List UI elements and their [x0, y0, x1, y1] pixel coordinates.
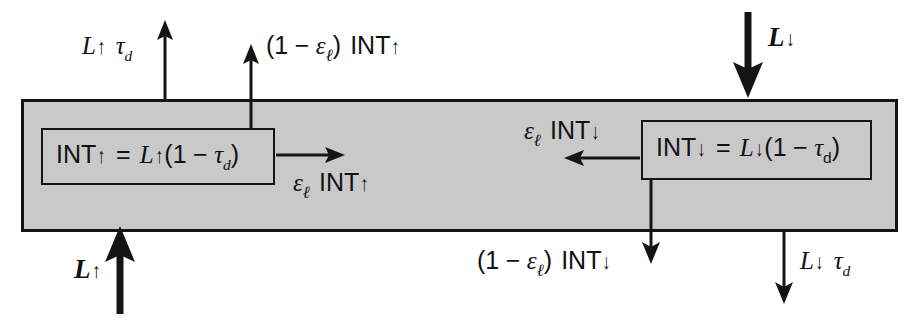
arrow-right-absorbed-up [276, 147, 345, 163]
token-epsilon: ε [527, 247, 537, 274]
token-rparen: ) [333, 31, 341, 59]
token-tau: τ [814, 134, 823, 161]
label-top-mid-emitted: (1−εℓ)INT↑ [266, 33, 401, 64]
token-lparen: ( [764, 133, 772, 161]
label-top-left-transmitted: L↑τd [82, 33, 132, 63]
arrow-down-bold-source [733, 12, 763, 98]
arrow-down-mid-emitted [642, 180, 660, 264]
token-L: L [82, 32, 96, 59]
arrow-glyph-down: ↓ [785, 28, 794, 49]
label-bottom-mid-emitted: (1−εℓ)INT↓ [477, 248, 612, 279]
label-absorbed-upward: εℓINT↑ [293, 170, 370, 201]
arrow-glyph-up: ↑ [97, 37, 106, 59]
token-epsilon: ε [316, 32, 326, 59]
token-one: 1 [485, 246, 499, 274]
arrow-up-mid-emitted [243, 44, 259, 128]
token-minus: − [193, 140, 208, 168]
token-one: 1 [173, 140, 187, 168]
token-INT: INT [319, 168, 359, 196]
token-subscript-l: ℓ [534, 131, 541, 150]
token-L-bold: L [768, 22, 785, 52]
arrow-left-absorbed-down [564, 150, 640, 166]
arrow-up-bold-source [105, 226, 135, 314]
token-INT: INT [550, 116, 590, 144]
arrow-glyph-down: ↓ [815, 252, 824, 274]
arrow-glyph-up: ↑ [91, 260, 100, 281]
token-subscript-l: ℓ [326, 46, 333, 65]
token-lparen: ( [164, 140, 172, 168]
token-tau: τ [834, 247, 843, 274]
token-INT: INT [350, 31, 390, 59]
token-subscript-l: ℓ [537, 261, 544, 280]
token-rparen: ) [832, 133, 840, 161]
arrow-down-right-transmitted [775, 232, 793, 304]
equation-upward-interception: INT↑=L↑(1−τd) [56, 142, 239, 172]
token-epsilon: ε [524, 117, 534, 144]
token-INT: INT [656, 133, 696, 161]
token-rparen: ) [544, 246, 552, 274]
token-L: L [140, 141, 154, 168]
token-subscript-d: d [843, 262, 851, 279]
label-absorbed-downward: εℓINT↓ [524, 118, 601, 149]
label-bottom-right-transmitted: L↓τd [800, 248, 850, 278]
token-epsilon: ε [293, 169, 303, 196]
token-subscript-l: ℓ [303, 183, 310, 202]
arrow-glyph-up: ↑ [391, 37, 400, 59]
arrow-glyph-down: ↓ [591, 122, 600, 143]
token-tau: τ [116, 32, 125, 59]
token-minus: − [793, 133, 808, 161]
arrow-glyph-down: ↓ [697, 139, 706, 161]
token-subscript-d: d [223, 156, 231, 173]
arrow-glyph-up: ↑ [155, 146, 164, 168]
token-one: 1 [773, 133, 787, 161]
token-one: 1 [274, 31, 288, 59]
equation-downward-interception: INT↓=L↓(1−τd) [656, 135, 840, 165]
arrow-glyph-up: ↑ [97, 146, 106, 168]
diagram-canvas: L↑τd (1−εℓ)INT↑ INT↑=L↑(1−τd) εℓINT↑ L↑ … [0, 0, 920, 322]
label-source-downward: L↓ [768, 24, 795, 51]
token-rparen: ) [231, 140, 239, 168]
token-minus: − [506, 246, 521, 274]
arrow-glyph-down: ↓ [755, 139, 764, 161]
token-equals: = [716, 133, 731, 161]
arrow-glyph-down: ↓ [602, 252, 611, 274]
arrow-glyph-up: ↑ [360, 174, 369, 196]
token-subscript-d: d [823, 149, 832, 166]
token-minus: − [295, 31, 310, 59]
token-subscript-d: d [125, 47, 133, 64]
token-equals: = [116, 140, 131, 168]
arrow-up-left-transmitted [157, 20, 173, 99]
token-L: L [740, 134, 754, 161]
token-INT: INT [56, 140, 96, 168]
token-L-bold: L [74, 254, 91, 284]
token-tau: τ [214, 141, 223, 168]
label-source-upward: L↑ [74, 256, 101, 283]
token-L: L [800, 247, 814, 274]
token-INT: INT [561, 246, 601, 274]
